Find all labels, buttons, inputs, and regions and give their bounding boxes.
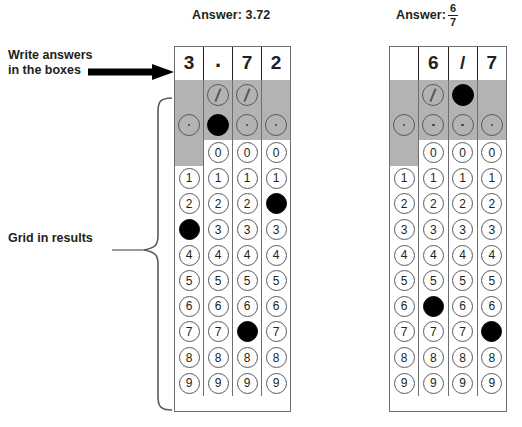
digit-bubble-0-4[interactable]: 0 (481, 142, 502, 163)
digit-bubble-5-2[interactable]: 5 (423, 270, 444, 291)
decimal-cell-4[interactable] (477, 110, 506, 140)
digit-bubble-3-1-filled[interactable] (179, 219, 200, 240)
digit-cell-4-2[interactable]: 4 (203, 242, 232, 268)
decimal-cell-2[interactable] (418, 110, 447, 140)
digit-cell-0-1[interactable] (175, 140, 203, 166)
digit-row-1-grid2[interactable]: 1111 (390, 166, 506, 192)
digit-cell-1-2[interactable]: 1 (418, 166, 447, 192)
slash-cell-3[interactable] (448, 80, 477, 110)
digit-row-0-grid1[interactable]: 0 0 0 (175, 140, 290, 166)
digit-bubble-4-1[interactable]: 4 (179, 245, 200, 266)
digit-cell-6-2[interactable] (418, 294, 447, 320)
decimal-bubble-2[interactable] (422, 114, 444, 136)
digit-bubble-8-4[interactable]: 8 (481, 347, 502, 368)
digit-bubble-4-3[interactable]: 4 (237, 245, 258, 266)
digit-bubble-9-4[interactable]: 9 (481, 373, 502, 394)
digit-cell-0-4[interactable]: 0 (261, 140, 290, 166)
digit-cell-7-2[interactable]: 7 (418, 319, 447, 345)
digit-cell-3-2[interactable]: 3 (418, 217, 447, 243)
digit-bubble-4-3[interactable]: 4 (452, 245, 473, 266)
written-cell-1[interactable]: 3 (175, 47, 203, 80)
slash-bubble-row-grid1[interactable] (175, 80, 290, 110)
digit-bubble-9-3[interactable]: 9 (452, 373, 473, 394)
digit-cell-2-4[interactable] (261, 191, 290, 217)
decimal-cell-1[interactable] (390, 110, 418, 140)
digit-bubble-2-2[interactable]: 2 (423, 193, 444, 214)
digit-bubble-2-1[interactable]: 2 (394, 193, 415, 214)
digit-cell-2-2[interactable]: 2 (203, 191, 232, 217)
digit-bubble-6-2[interactable]: 6 (208, 296, 229, 317)
written-cell-2[interactable]: 6 (418, 47, 447, 80)
written-cell-4[interactable]: 2 (261, 47, 290, 80)
digit-bubble-2-2[interactable]: 2 (208, 193, 229, 214)
digit-bubble-3-2[interactable]: 3 (208, 219, 229, 240)
digit-cell-3-3[interactable]: 3 (232, 217, 261, 243)
written-cell-3[interactable]: / (448, 47, 477, 80)
digit-bubble-9-1[interactable]: 9 (394, 373, 415, 394)
digit-cell-1-1[interactable]: 1 (175, 166, 203, 192)
digit-bubble-6-1[interactable]: 6 (394, 296, 415, 317)
digit-cell-2-1[interactable]: 2 (175, 191, 203, 217)
decimal-bubble-row-grid2[interactable] (390, 110, 506, 140)
digit-cell-3-3[interactable]: 3 (448, 217, 477, 243)
written-cell-4[interactable]: 7 (477, 47, 506, 80)
digit-cell-9-4[interactable]: 9 (261, 370, 290, 396)
digit-cell-4-4[interactable]: 4 (261, 242, 290, 268)
digit-bubble-8-2[interactable]: 8 (423, 347, 444, 368)
digit-bubble-7-4-filled[interactable] (481, 321, 502, 342)
digit-cell-5-1[interactable]: 5 (175, 268, 203, 294)
decimal-bubble-row-grid1[interactable] (175, 110, 290, 140)
answer-grid-fraction[interactable]: 6 / 7 (389, 46, 507, 412)
digit-bubble-5-1[interactable]: 5 (179, 270, 200, 291)
digit-row-8-grid1[interactable]: 8888 (175, 345, 290, 371)
digit-bubble-4-2[interactable]: 4 (423, 245, 444, 266)
digit-bubble-6-3[interactable]: 6 (452, 296, 473, 317)
digit-bubble-3-4[interactable]: 3 (266, 219, 287, 240)
digit-cell-4-1[interactable]: 4 (390, 242, 418, 268)
written-cell-2[interactable]: . (203, 47, 232, 80)
digit-bubble-1-3[interactable]: 1 (237, 168, 258, 189)
digit-cell-5-3[interactable]: 5 (232, 268, 261, 294)
digit-bubble-9-4[interactable]: 9 (266, 373, 287, 394)
slash-bubble-2[interactable] (422, 84, 444, 106)
digit-bubble-1-1[interactable]: 1 (394, 168, 415, 189)
digit-cell-1-4[interactable]: 1 (261, 166, 290, 192)
digit-row-0-grid2[interactable]: 0 0 0 (390, 140, 506, 166)
digit-cell-1-3[interactable]: 1 (232, 166, 261, 192)
digit-bubble-7-2[interactable]: 7 (208, 321, 229, 342)
digit-bubble-4-2[interactable]: 4 (208, 245, 229, 266)
digit-row-5-grid1[interactable]: 5555 (175, 268, 290, 294)
decimal-bubble-4[interactable] (481, 114, 503, 136)
digit-bubble-7-1[interactable]: 7 (179, 321, 200, 342)
digit-bubble-3-2[interactable]: 3 (423, 219, 444, 240)
digit-row-1-grid1[interactable]: 1111 (175, 166, 290, 192)
digit-row-2-grid2[interactable]: 2222 (390, 191, 506, 217)
digit-cell-8-3[interactable]: 8 (448, 345, 477, 371)
digit-bubble-7-3-filled[interactable] (237, 321, 258, 342)
digit-bubble-5-3[interactable]: 5 (452, 270, 473, 291)
digit-cell-7-2[interactable]: 7 (203, 319, 232, 345)
digit-cell-3-1[interactable]: 3 (390, 217, 418, 243)
digit-cell-3-4[interactable]: 3 (477, 217, 506, 243)
digit-cell-8-1[interactable]: 8 (175, 345, 203, 371)
digit-cell-6-2[interactable]: 6 (203, 294, 232, 320)
digit-bubble-2-1[interactable]: 2 (179, 193, 200, 214)
digit-cell-2-1[interactable]: 2 (390, 191, 418, 217)
digit-bubble-7-3[interactable]: 7 (452, 321, 473, 342)
slash-cell-1[interactable] (175, 80, 203, 110)
decimal-cell-1[interactable] (175, 110, 203, 140)
digit-cell-2-4[interactable]: 2 (477, 191, 506, 217)
digit-cell-5-2[interactable]: 5 (203, 268, 232, 294)
digit-bubble-9-1[interactable]: 9 (179, 373, 200, 394)
digit-cell-4-4[interactable]: 4 (477, 242, 506, 268)
digit-cell-6-3[interactable]: 6 (232, 294, 261, 320)
digit-cell-9-1[interactable]: 9 (175, 370, 203, 396)
written-answer-row-grid2[interactable]: 6 / 7 (390, 47, 506, 80)
digit-bubble-5-3[interactable]: 5 (237, 270, 258, 291)
digit-bubble-6-4[interactable]: 6 (266, 296, 287, 317)
digit-bubble-1-2[interactable]: 1 (208, 168, 229, 189)
slash-cell-4[interactable] (261, 80, 290, 110)
digit-bubble-6-3[interactable]: 6 (237, 296, 258, 317)
digit-bubble-0-2[interactable]: 0 (423, 142, 444, 163)
digit-row-2-grid1[interactable]: 222 (175, 191, 290, 217)
